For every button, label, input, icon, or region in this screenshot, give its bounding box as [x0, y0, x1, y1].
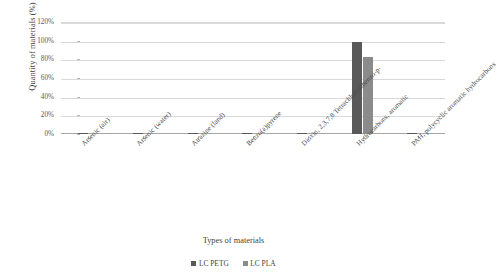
bar — [188, 133, 198, 134]
y-axis-tick-label: 40% — [20, 93, 54, 101]
chart-legend: LC PETGLC PLA — [0, 259, 467, 268]
legend-item[interactable]: LC PLA — [243, 259, 276, 268]
y-axis-tick-label: 120% — [20, 18, 54, 26]
legend-item[interactable]: LC PETG — [191, 259, 228, 268]
y-axis-tick-labels: 120%100%80%60%40%20%0% — [20, 0, 58, 134]
y-axis-tick-mark — [77, 134, 80, 135]
legend-label: LC PLA — [250, 259, 275, 268]
y-axis-tick-label: 100% — [20, 37, 54, 45]
x-axis-title: Types of materials — [0, 236, 467, 245]
bar — [297, 133, 307, 134]
y-axis-tick-label: 80% — [20, 55, 54, 63]
legend-label: LC PETG — [199, 259, 229, 268]
bar — [242, 133, 252, 134]
y-axis-tick-label: 20% — [20, 111, 54, 119]
legend-swatch-icon — [191, 261, 196, 266]
bar — [407, 133, 417, 134]
x-axis-category-labels: Arsenic (air)Arsenic (water)Atrazine (la… — [0, 136, 467, 236]
legend-swatch-icon — [243, 261, 248, 266]
y-axis-tick-label: 60% — [20, 74, 54, 82]
